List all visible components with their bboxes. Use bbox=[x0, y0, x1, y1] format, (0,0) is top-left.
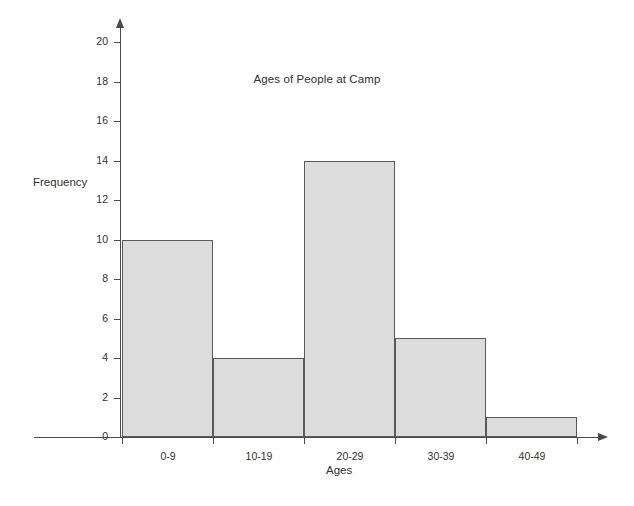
y-tick-mark bbox=[114, 82, 120, 83]
x-tick-label: 30-39 bbox=[395, 450, 487, 462]
histogram-bar bbox=[486, 417, 577, 437]
histogram-bar bbox=[304, 161, 395, 438]
plot-area: 02468101214161820 0-910-1920-2930-3940-4… bbox=[0, 0, 634, 506]
x-tick-mark bbox=[395, 437, 396, 444]
y-tick-label: 6 bbox=[68, 313, 108, 324]
x-tick-label: 10-19 bbox=[213, 450, 305, 462]
y-tick-label: 8 bbox=[68, 273, 108, 284]
y-tick-mark bbox=[114, 319, 120, 320]
y-tick-mark bbox=[114, 398, 120, 399]
y-tick-label: 12 bbox=[68, 194, 108, 205]
y-tick-mark bbox=[114, 358, 120, 359]
x-tick-mark bbox=[577, 437, 578, 444]
y-tick-label: 20 bbox=[68, 36, 108, 47]
histogram-bar bbox=[122, 240, 213, 438]
y-tick-label: 4 bbox=[68, 352, 108, 363]
x-tick-label: 20-29 bbox=[304, 450, 396, 462]
y-tick-label: 16 bbox=[68, 115, 108, 126]
y-tick-mark bbox=[114, 437, 120, 438]
y-tick-mark bbox=[114, 161, 120, 162]
y-axis-line bbox=[120, 27, 121, 437]
y-tick-mark bbox=[114, 200, 120, 201]
y-tick-mark bbox=[114, 240, 120, 241]
x-tick-mark bbox=[122, 437, 123, 444]
histogram-bar bbox=[213, 358, 304, 437]
y-tick-label: 14 bbox=[68, 155, 108, 166]
y-tick-mark bbox=[114, 279, 120, 280]
x-axis-arrow-icon bbox=[598, 433, 608, 441]
y-tick-label: 10 bbox=[68, 234, 108, 245]
y-tick-mark bbox=[114, 121, 120, 122]
x-tick-label: 0-9 bbox=[122, 450, 214, 462]
y-tick-mark bbox=[114, 42, 120, 43]
histogram-chart: Ages of People at Camp Frequency Ages 02… bbox=[0, 0, 634, 506]
y-tick-label: 0 bbox=[68, 431, 108, 442]
y-tick-label: 18 bbox=[68, 76, 108, 87]
y-tick-label: 2 bbox=[68, 392, 108, 403]
histogram-bar bbox=[395, 338, 486, 437]
x-tick-label: 40-49 bbox=[486, 450, 578, 462]
x-tick-mark bbox=[486, 437, 487, 444]
y-axis-arrow-icon bbox=[116, 18, 124, 28]
x-tick-mark bbox=[213, 437, 214, 444]
x-tick-mark bbox=[304, 437, 305, 444]
